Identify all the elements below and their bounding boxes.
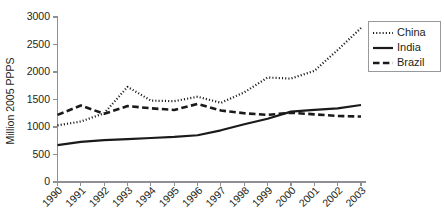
chart-legend: ChinaIndiaBrazil [369,22,441,72]
x-tick-label: 1994 [133,184,158,209]
x-tick-label: 1993 [109,184,134,209]
x-tick-label: 2000 [273,184,298,209]
y-axis-title: Million 2005 PPPS [4,58,16,145]
legend-label-india: India [397,41,422,53]
y-axis-title-group: Million 2005 PPPS [4,58,16,145]
y-tick-label: 1000 [27,120,51,132]
y-axis-ticks: 050010001500200025003000 [27,10,58,187]
x-tick-label: 2002 [320,184,345,209]
x-tick-label: 1990 [39,184,64,209]
legend-label-brazil: Brazil [397,56,425,68]
x-tick-label: 1998 [226,184,251,209]
x-tick-label: 2001 [296,184,321,209]
y-tick-label: 1500 [27,93,51,105]
data-series-group [58,28,362,145]
y-tick-label: 500 [32,148,50,160]
x-tick-label: 1997 [203,184,228,209]
x-tick-label: 1992 [86,184,111,209]
x-tick-label: 1995 [156,184,181,209]
chart-canvas: Million 2005 PPPS 0500100015002000250030… [0,0,445,224]
y-tick-label: 2000 [27,65,51,77]
x-tick-label: 1991 [63,184,88,209]
x-tick-label: 2003 [343,184,368,209]
series-line-india [58,105,362,145]
y-tick-label: 2500 [27,38,51,50]
x-tick-label: 1999 [250,184,275,209]
x-tick-label: 1996 [179,184,204,209]
y-tick-label: 0 [44,175,50,187]
legend-label-china: China [397,26,427,38]
y-tick-label: 3000 [27,10,51,22]
x-axis-ticks: 1990199119921993199419951996199719981999… [39,182,368,209]
line-chart: Million 2005 PPPS 0500100015002000250030… [0,0,445,224]
